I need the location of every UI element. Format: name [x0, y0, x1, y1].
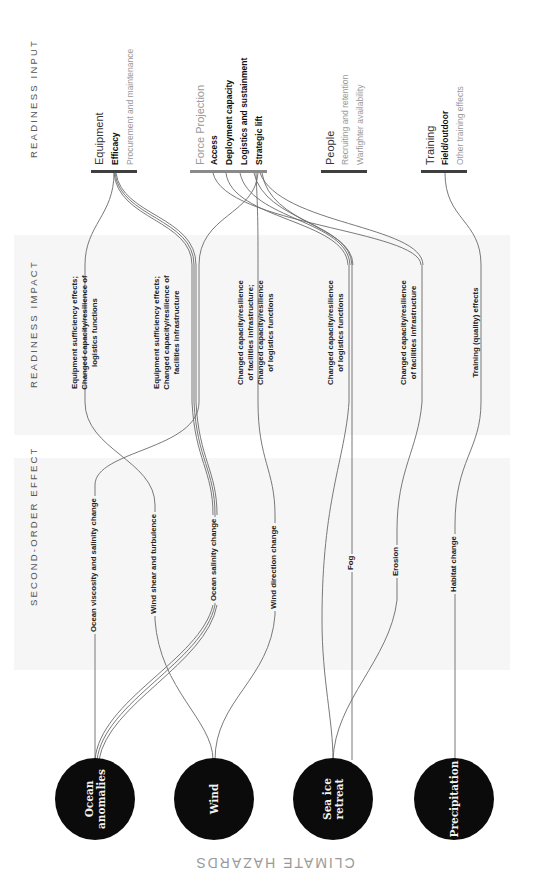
impact-node-5: Changed capacity/resilience of facilitie… — [399, 270, 419, 395]
hazard-label: Precipitation — [448, 761, 460, 838]
second-order-ocean-viscosity: Ocean viscosity and salinity change — [89, 496, 98, 634]
bar-training — [421, 170, 467, 173]
input-item-deployment-capacity: Deployment capacity — [224, 80, 234, 165]
section-title-readiness-input: READINESS INPUT — [28, 39, 39, 158]
group-title-training: Training — [424, 126, 436, 165]
second-order-habitat: Habitat change — [449, 534, 458, 594]
impact-node-1: Equipment sufficiency effects; Changed c… — [70, 270, 100, 395]
impact-node-6: Training (quality) effects — [471, 270, 481, 395]
hazard-label: Sea ice retreat — [321, 778, 345, 820]
hazard-ocean-anomalies: Ocean anomalies — [55, 758, 135, 840]
connection-links — [0, 0, 549, 887]
hazard-wind: Wind — [174, 758, 254, 840]
section-title-readiness-impact: READINESS IMPACT — [28, 260, 39, 388]
input-item-recruiting: Recruiting and retention — [340, 75, 350, 165]
input-item-efficacy: Efficacy — [110, 132, 120, 165]
hazard-label: Wind — [208, 784, 220, 815]
second-order-erosion: Erosion — [391, 545, 400, 578]
impact-node-4: Changed capacity/resilience of logistics… — [326, 270, 346, 395]
bar-equipment — [91, 170, 137, 173]
second-order-wind-direction: Wind direction change — [269, 523, 278, 611]
impact-node-3: Changed capacity/resilience of facilitie… — [236, 270, 276, 395]
group-title-equipment: Equipment — [93, 112, 105, 165]
group-title-force-projection: Force Projection — [194, 85, 206, 165]
hazard-sea-ice-retreat: Sea ice retreat — [293, 758, 373, 840]
section-title-climate-hazards: CLIMATE HAZARDS — [0, 855, 549, 871]
section-title-second-order-effect: SECOND-ORDER EFFECT — [28, 447, 39, 607]
group-title-people: People — [324, 131, 336, 165]
second-order-fog: Fog — [346, 554, 355, 572]
input-item-warfighter: Warfighter availability — [355, 85, 365, 165]
input-item-access: Access — [209, 135, 219, 165]
input-item-field-outdoor: Field/outdoor — [440, 111, 450, 165]
bar-force-projection — [190, 170, 267, 173]
input-item-logistics-sustainment: Logistics and sustainment — [239, 58, 249, 165]
hazard-precipitation: Precipitation — [414, 758, 494, 840]
input-item-strategic-lift: Strategic lift — [254, 116, 264, 165]
input-item-procurement: Procurement and maintenance — [125, 49, 135, 165]
second-order-ocean-salinity: Ocean salinity change — [209, 517, 218, 603]
second-order-wind-shear: Wind shear and turbulence — [149, 512, 158, 616]
input-item-other-training: Other training effects — [455, 86, 465, 165]
impact-node-2: Equipment sufficiency effects; Changed c… — [152, 270, 182, 395]
hazard-label: Ocean anomalies — [83, 769, 107, 829]
bar-people — [321, 170, 367, 173]
